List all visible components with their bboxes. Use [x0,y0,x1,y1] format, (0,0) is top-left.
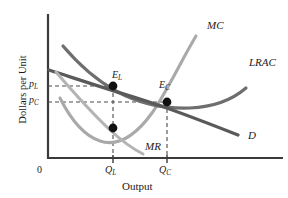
point-EL [109,82,118,91]
x-tick-label-QL: QL [105,165,116,177]
curve-label-mr: MR [145,141,161,152]
economics-chart-figure: Dollars per Unit [0,0,288,198]
y-tick-label-pC: pC [29,95,39,107]
x-tick-label-QC-sub: C [166,169,171,177]
point-label-EL: EL [112,70,122,82]
point-label-EC-sub: C [165,84,170,92]
point-mr-mc-intersection [109,124,118,133]
curve-lrac [63,46,246,108]
x-tick-label-QC: QC [159,165,171,177]
x-axis-title: Output [122,181,153,192]
origin-label: 0 [37,165,42,175]
point-label-EC: EC [159,80,170,92]
curve-label-d: D [248,130,256,141]
chart-plot-area [0,0,288,198]
y-tick-label-pL: pL [29,79,38,91]
x-tick-label-QL-sub: L [112,169,116,177]
curve-mc [60,36,196,143]
curve-label-lrac: LRAC [249,57,276,68]
y-tick-label-pL-sub: L [34,83,38,91]
point-label-EL-sub: L [118,74,122,82]
y-tick-label-pC-sub: C [34,99,39,107]
point-EC [163,98,172,107]
curve-label-mc: MC [207,20,224,31]
